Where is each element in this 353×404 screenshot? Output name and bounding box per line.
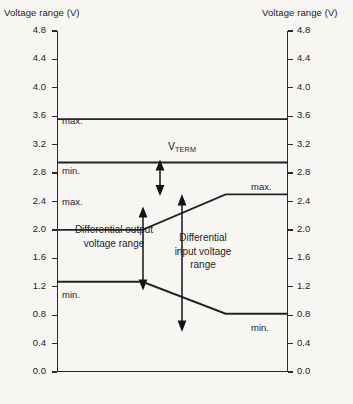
tick-label-left-2.4: 2.4 bbox=[0, 195, 46, 206]
tick-label-left-0.4: 0.4 bbox=[0, 337, 46, 348]
tick-label-right-4.8: 4.8 bbox=[297, 24, 343, 35]
tick-label-left-3.2: 3.2 bbox=[0, 138, 46, 149]
input-range-line-1: Differential bbox=[152, 231, 254, 245]
tick-right-0.0 bbox=[288, 371, 293, 372]
tick-right-2.0 bbox=[288, 229, 293, 230]
left-axis-title: Voltage range (V) bbox=[4, 7, 80, 18]
tick-label-left-1.6: 1.6 bbox=[0, 251, 46, 262]
plot-area: 4.84.44.03.63.22.82.42.01.61.20.80.40.0 … bbox=[57, 31, 288, 372]
vterm-symbol-text: V bbox=[168, 140, 175, 152]
output-min-label: min. bbox=[62, 289, 80, 300]
tick-label-right-0.8: 0.8 bbox=[297, 308, 343, 319]
vterm-arrow bbox=[156, 160, 165, 197]
input-range-line-3: range bbox=[152, 258, 254, 272]
vterm-symbol-label: VTERM bbox=[168, 140, 196, 152]
tick-label-right-2.0: 2.0 bbox=[297, 223, 343, 234]
tick-right-0.8 bbox=[288, 315, 293, 316]
tick-label-right-3.2: 3.2 bbox=[297, 138, 343, 149]
tick-label-right-2.4: 2.4 bbox=[297, 195, 343, 206]
tick-label-right-1.6: 1.6 bbox=[297, 251, 343, 262]
tick-right-1.6 bbox=[288, 258, 293, 259]
tick-label-left-3.6: 3.6 bbox=[0, 109, 46, 120]
tick-label-left-2.0: 2.0 bbox=[0, 223, 46, 234]
input-range-label: Differential input voltage range bbox=[152, 231, 254, 272]
tick-label-right-4.4: 4.4 bbox=[297, 52, 343, 63]
tick-right-4.4 bbox=[288, 59, 293, 60]
input-min-label: min. bbox=[251, 322, 269, 333]
tick-label-right-4.0: 4.0 bbox=[297, 81, 343, 92]
input-max-label: max. bbox=[251, 181, 272, 192]
output-max-label: max. bbox=[62, 196, 83, 207]
voltage-range-figure: Voltage range (V) Voltage range (V) 4.84… bbox=[0, 0, 353, 404]
tick-right-4.0 bbox=[288, 87, 293, 88]
tick-label-left-4.8: 4.8 bbox=[0, 24, 46, 35]
tick-label-left-1.2: 1.2 bbox=[0, 280, 46, 291]
input-range-line-2: input voltage bbox=[152, 245, 254, 259]
tick-right-2.8 bbox=[288, 172, 293, 173]
tick-right-1.2 bbox=[288, 286, 293, 287]
tick-label-left-4.4: 4.4 bbox=[0, 52, 46, 63]
data-lines bbox=[57, 31, 288, 372]
tick-right-2.4 bbox=[288, 201, 293, 202]
tick-label-right-1.2: 1.2 bbox=[297, 280, 343, 291]
right-axis-title: Voltage range (V) bbox=[262, 7, 338, 18]
tick-right-4.8 bbox=[288, 30, 293, 31]
tick-label-left-4.0: 4.0 bbox=[0, 81, 46, 92]
vterm-subscript-text: TERM bbox=[175, 145, 196, 154]
tick-label-right-2.8: 2.8 bbox=[297, 166, 343, 177]
vterm-min-label: min. bbox=[62, 165, 80, 176]
vterm-max-label: max. bbox=[62, 115, 83, 126]
tick-label-left-0.0: 0.0 bbox=[0, 365, 46, 376]
tick-label-left-0.8: 0.8 bbox=[0, 308, 46, 319]
tick-right-3.2 bbox=[288, 144, 293, 145]
tick-label-left-2.8: 2.8 bbox=[0, 166, 46, 177]
series-line-3 bbox=[57, 282, 288, 314]
tick-right-0.4 bbox=[288, 343, 293, 344]
tick-right-3.6 bbox=[288, 116, 293, 117]
tick-label-right-3.6: 3.6 bbox=[297, 109, 343, 120]
tick-label-right-0.4: 0.4 bbox=[297, 337, 343, 348]
tick-label-right-0.0: 0.0 bbox=[297, 365, 343, 376]
